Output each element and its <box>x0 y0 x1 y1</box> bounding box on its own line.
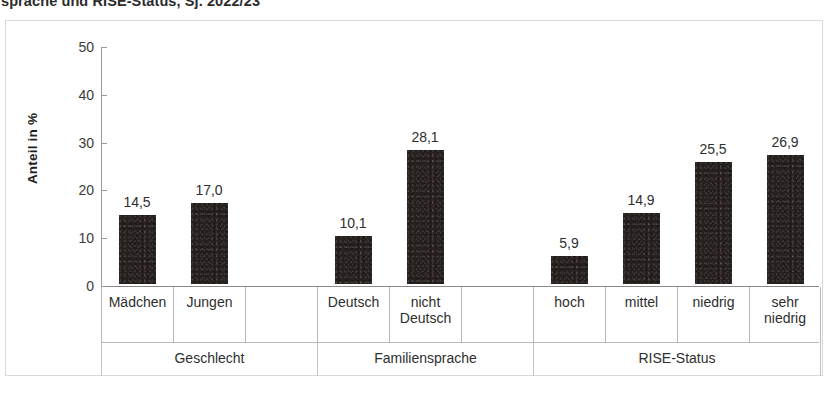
category-spacer-cell <box>461 287 533 343</box>
chart-title-strip: sprache und RISE-Status, Sj. 2022/23 <box>0 0 829 11</box>
bar[interactable] <box>623 213 660 284</box>
group-label: Familiensprache <box>318 350 533 366</box>
y-axis-line <box>101 47 102 287</box>
group-label-band: GeschlechtFamilienspracheRISE-Status <box>101 343 819 376</box>
category-label: hoch <box>534 294 605 310</box>
page-title: sprache und RISE-Status, Sj. 2022/23 <box>0 0 829 11</box>
y-axis-tick <box>101 238 107 239</box>
bar[interactable] <box>119 215 156 284</box>
y-axis-tick-label: 40 <box>46 88 94 102</box>
y-axis-title: Anteil in % <box>25 79 40 219</box>
category-label: niedrig <box>678 294 749 310</box>
category-label-band: MädchenJungenDeutschnichtDeutschhochmitt… <box>101 287 819 343</box>
bar[interactable] <box>695 162 732 284</box>
category-label-cell[interactable]: nichtDeutsch <box>389 287 461 343</box>
bar-value-label: 25,5 <box>677 142 749 156</box>
y-axis-tick-label: 30 <box>46 136 94 150</box>
category-label: sehrniedrig <box>750 294 820 326</box>
y-axis-tick <box>101 143 107 144</box>
bar[interactable] <box>551 256 588 284</box>
y-axis-tick-label: 0 <box>46 279 94 293</box>
bar-value-label: 17,0 <box>173 183 245 197</box>
group-label: Geschlecht <box>102 350 317 366</box>
bar[interactable] <box>407 150 444 284</box>
bar[interactable] <box>767 155 804 284</box>
bar-value-label: 14,9 <box>605 193 677 207</box>
category-label-cell[interactable]: sehrniedrig <box>749 287 821 343</box>
bar-value-label: 26,9 <box>749 135 821 149</box>
category-label-cell[interactable]: Jungen <box>173 287 245 343</box>
bar[interactable] <box>335 236 372 284</box>
y-axis-tick <box>101 190 107 191</box>
category-label-cell[interactable]: Deutsch <box>317 287 389 343</box>
y-axis-tick-label: 10 <box>46 231 94 245</box>
category-label: Mädchen <box>102 294 173 310</box>
category-label-cell[interactable]: niedrig <box>677 287 749 343</box>
bar-value-label: 28,1 <box>389 130 461 144</box>
group-label-cell[interactable]: RISE-Status <box>533 343 821 376</box>
group-label-cell[interactable]: Geschlecht <box>101 343 317 376</box>
bar-value-label: 5,9 <box>533 236 605 250</box>
footer-ghost-text <box>6 381 821 393</box>
bar[interactable] <box>191 203 228 284</box>
y-axis-tick-label: 50 <box>46 40 94 54</box>
category-label-cell[interactable]: mittel <box>605 287 677 343</box>
category-label: Deutsch <box>318 294 389 310</box>
category-label-cell[interactable]: hoch <box>533 287 605 343</box>
y-axis-tick-label: 20 <box>46 183 94 197</box>
category-label: Jungen <box>174 294 245 310</box>
category-label-cell[interactable]: Mädchen <box>101 287 173 343</box>
category-label: nichtDeutsch <box>390 294 461 326</box>
group-label: RISE-Status <box>534 350 820 366</box>
category-spacer-cell <box>245 287 317 343</box>
bar-value-label: 10,1 <box>317 216 389 230</box>
bar-value-label: 14,5 <box>101 195 173 209</box>
y-axis-tick <box>101 47 107 48</box>
group-label-cell[interactable]: Familiensprache <box>317 343 533 376</box>
chart-frame: Anteil in % 01020304050 14,517,010,128,1… <box>5 20 823 376</box>
category-label: mittel <box>606 294 677 310</box>
y-axis-tick <box>101 95 107 96</box>
